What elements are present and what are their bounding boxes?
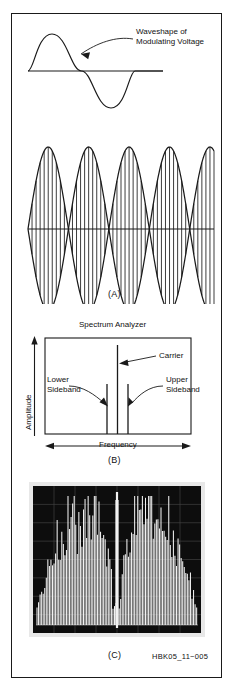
panel-b-caption: (B) — [108, 455, 121, 465]
frequency-axis-arrowhead-right — [182, 443, 191, 450]
panel-b: Spectrum Analyzer Ampli — [11, 318, 222, 470]
panel-a-caption: (A) — [108, 289, 121, 299]
scope-screen — [33, 486, 201, 633]
panel-c: (C) HBK05_11−005 — [11, 482, 222, 678]
am-envelope-group — [28, 147, 214, 304]
panel-a-graphic — [11, 14, 222, 304]
amplitude-axis-arrowhead — [31, 336, 37, 345]
modulating-voltage-label: Waveshape of Modulating Voltage — [136, 27, 221, 47]
scope-trace-graphic — [33, 486, 201, 633]
carrier-annotation-label: Carrier — [159, 351, 183, 361]
lower-sideband-annotation-label: Lower Sideband — [47, 375, 81, 395]
amplitude-axis-label: Amplitude — [24, 394, 33, 430]
figure-container: Waveshape of Modulating Voltage (A) Spec… — [0, 0, 231, 689]
annotation-leader-line — [81, 38, 133, 54]
upper-sideband-annotation-label: Upper Sideband — [166, 375, 200, 395]
figure-credit: HBK05_11−005 — [152, 652, 208, 661]
frequency-axis-arrowhead-left — [45, 443, 54, 450]
panel-c-caption: (C) — [108, 650, 121, 660]
frequency-axis-label: Frequency — [99, 440, 137, 450]
panel-a: Waveshape of Modulating Voltage (A) — [11, 14, 222, 304]
